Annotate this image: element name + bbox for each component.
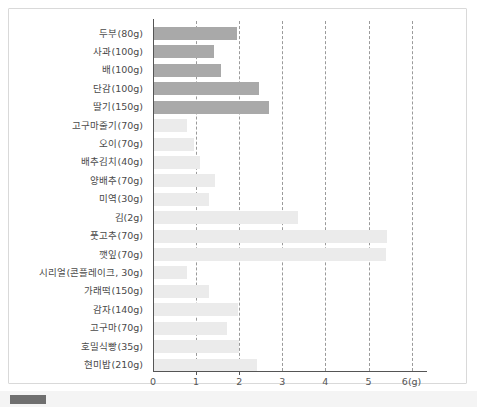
y-axis-line bbox=[153, 19, 154, 371]
category-label: 현미밥(210g) bbox=[84, 358, 143, 372]
x-tick-label: 1 bbox=[193, 376, 199, 387]
x-tick-label: 3 bbox=[279, 376, 285, 387]
x-tick-label: 0 bbox=[150, 376, 156, 387]
category-label: 김(2g) bbox=[115, 211, 144, 225]
gridline-6 bbox=[412, 21, 413, 371]
category-label: 감자(140g) bbox=[93, 303, 143, 317]
legend-swatch bbox=[10, 395, 46, 404]
x-tick-label: 2 bbox=[236, 376, 242, 387]
x-axis-tick-labels: 0123456(g) bbox=[153, 376, 443, 390]
gridline-5 bbox=[369, 21, 370, 371]
category-label: 호밀식빵(35g) bbox=[81, 340, 143, 354]
category-label: 사과(100g) bbox=[93, 45, 143, 59]
bar bbox=[153, 64, 221, 77]
bar bbox=[153, 174, 215, 187]
category-label: 두부(80g) bbox=[99, 27, 143, 41]
bar bbox=[153, 285, 209, 298]
category-label: 배(100g) bbox=[102, 63, 143, 77]
bar bbox=[153, 340, 239, 353]
gridline-2 bbox=[239, 21, 240, 371]
bars-area bbox=[153, 21, 425, 371]
x-tick-label: 4 bbox=[322, 376, 328, 387]
category-label: 깻잎(70g) bbox=[99, 248, 143, 262]
category-label: 고구마(70g) bbox=[90, 321, 143, 335]
bar bbox=[153, 193, 209, 206]
bar bbox=[153, 322, 227, 335]
chart-card: 두부(80g)사과(100g)배(100g)단감(100g)딸기(150g)고구… bbox=[8, 8, 467, 384]
category-label: 딸기(150g) bbox=[93, 100, 143, 114]
category-label: 단감(100g) bbox=[93, 82, 143, 96]
bar bbox=[153, 248, 386, 261]
category-label-column: 두부(80g)사과(100g)배(100g)단감(100g)딸기(150g)고구… bbox=[9, 21, 149, 371]
bar bbox=[153, 303, 238, 316]
bar bbox=[153, 230, 387, 243]
category-label: 배추김치(40g) bbox=[81, 155, 143, 169]
x-tick-label: 6(g) bbox=[402, 376, 422, 387]
category-label: 오이(70g) bbox=[99, 137, 143, 151]
category-label: 미역(30g) bbox=[99, 192, 143, 206]
bar bbox=[153, 119, 187, 132]
bar bbox=[153, 266, 187, 279]
gridline-3 bbox=[282, 21, 283, 371]
category-label: 가래떡(150g) bbox=[84, 284, 143, 298]
category-label: 시리얼(콘플레이크, 30g) bbox=[39, 266, 143, 280]
legend-footer-strip bbox=[0, 391, 477, 407]
bar bbox=[153, 101, 269, 114]
bar bbox=[153, 82, 259, 95]
category-label: 양배추(70g) bbox=[90, 174, 143, 188]
x-tick-mark bbox=[196, 371, 197, 375]
gridline-4 bbox=[325, 21, 326, 371]
category-label: 고구마줄기(70g) bbox=[72, 119, 143, 133]
bar bbox=[153, 359, 257, 372]
bar bbox=[153, 156, 200, 169]
bar-chart-plot: 두부(80g)사과(100g)배(100g)단감(100g)딸기(150g)고구… bbox=[9, 9, 466, 383]
x-tick-label: 5 bbox=[365, 376, 371, 387]
bar bbox=[153, 138, 194, 151]
bar bbox=[153, 45, 214, 58]
x-tick-mark bbox=[239, 371, 240, 375]
x-axis-line bbox=[153, 371, 427, 372]
category-label: 풋고추(70g) bbox=[90, 229, 143, 243]
bar bbox=[153, 27, 237, 40]
bar bbox=[153, 211, 298, 224]
